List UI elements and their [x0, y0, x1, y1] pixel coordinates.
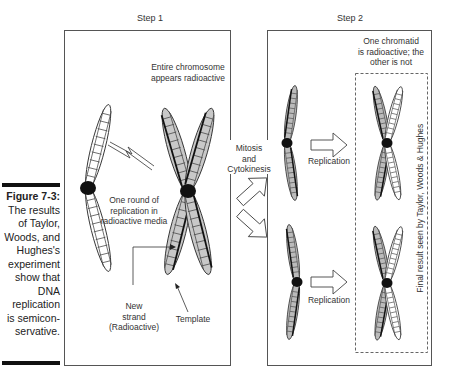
mitosis-cytokinesis-label: Mitosis and Cytokinesis [226, 143, 272, 175]
step2-top-note: One chromatid is radioactive; the other … [348, 36, 434, 68]
step1-title: Step 1 [130, 13, 170, 24]
note-line: is radioactive; the [348, 47, 434, 58]
replication-label-top: Replication [304, 156, 354, 167]
step2-title: Step 2 [330, 13, 370, 24]
new-strand-label: New strand (Radioactive) [106, 301, 162, 333]
replication-label-bottom: Replication [304, 295, 354, 306]
template-label: Template [168, 314, 218, 325]
note-line: radioactive media [98, 216, 170, 227]
note-line: One round of [98, 195, 170, 206]
note-line: replication in [98, 206, 170, 217]
label-line: New [106, 301, 162, 312]
label-line: Cytokinesis [226, 164, 272, 175]
note-line: Entire chromosome [148, 62, 228, 73]
step1-middle-note: One round of replication in radioactive … [98, 195, 170, 227]
label-line: Mitosis [226, 143, 272, 154]
label-line: (Radioactive) [106, 322, 162, 333]
note-line: One chromatid [348, 36, 434, 47]
note-line: appears radioactive [148, 73, 228, 84]
step1-top-note: Entire chromosome appears radioactive [148, 62, 228, 83]
final-result-vertical-note: Final result seen by Taylor, Woods & Hug… [415, 108, 426, 308]
label-line: strand [106, 312, 162, 323]
note-line: other is not [348, 57, 434, 68]
label-line: and [226, 154, 272, 165]
